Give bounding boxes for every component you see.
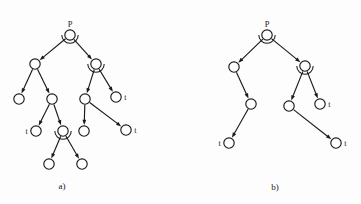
node-b-n3[interactable] (246, 99, 256, 109)
node-a-n7[interactable] (31, 126, 41, 136)
arrowhead-b-n3-to-b-n6 (232, 132, 236, 137)
edge-a-n5-to-a-n9 (84, 105, 85, 122)
node-a-n9[interactable] (79, 126, 89, 136)
caption-b: b) (271, 182, 279, 192)
node-a-n10[interactable] (121, 125, 131, 135)
arrowhead-a-n5-to-a-n9 (82, 120, 86, 125)
arrowhead-a-n4-to-a-n7 (39, 120, 43, 126)
node-a-n6[interactable] (111, 92, 121, 102)
arrowhead-b-n2-to-b-n4 (291, 95, 295, 101)
graph-diagram-a: Pttt (14, 19, 137, 170)
node-a-n12[interactable] (77, 159, 87, 169)
edge-a-root-to-a-n2 (74, 39, 90, 57)
node-label-b-n5: t (328, 100, 331, 109)
arrowhead-a-n4-to-a-n8 (58, 120, 62, 126)
edge-b-n2-to-b-n5 (307, 71, 317, 95)
node-b-n7[interactable] (331, 138, 341, 148)
node-b-n5[interactable] (315, 99, 325, 109)
arrowhead-a-n2-to-a-n6 (109, 86, 113, 91)
figure-container: PtttPttta)b) (0, 0, 361, 204)
node-b-root[interactable] (262, 30, 272, 40)
node-label-b-n6: t (219, 139, 222, 148)
edge-a-n4-to-a-n7 (40, 104, 49, 123)
graph-diagram-b: Pttt (219, 19, 348, 149)
edge-b-n1-to-b-n3 (236, 72, 247, 96)
node-a-root[interactable] (65, 30, 75, 40)
node-a-n1[interactable] (30, 59, 40, 69)
node-label-b-n7: t (344, 139, 347, 148)
node-a-n11[interactable] (44, 159, 54, 169)
arrowhead-a-n8-to-a-n11 (51, 153, 55, 159)
node-a-n4[interactable] (47, 94, 57, 104)
arrowhead-a-n2-to-a-n5 (87, 88, 91, 94)
edge-a-n1-to-a-n3 (23, 69, 33, 91)
caption-a: a) (59, 181, 66, 191)
edge-b-n3-to-b-n6 (233, 109, 248, 135)
edge-a-n5-to-a-n10 (90, 103, 119, 125)
edge-a-root-to-a-n1 (42, 39, 66, 59)
edge-a-n4-to-a-n8 (54, 104, 60, 122)
edge-a-n2-to-a-n5 (88, 70, 95, 91)
node-a-n5[interactable] (80, 94, 90, 104)
arrowhead-a-n1-to-a-n3 (21, 88, 25, 94)
edge-a-n8-to-a-n12 (66, 136, 78, 156)
arrowhead-a-n1-to-a-n4 (45, 88, 49, 94)
arrowhead-a-n8-to-a-n12 (75, 153, 79, 158)
edge-b-n4-to-b-n7 (294, 110, 329, 138)
arrowhead-b-n2-to-b-n5 (314, 93, 318, 99)
node-b-n4[interactable] (284, 101, 294, 111)
edge-a-n2-to-a-n6 (99, 69, 111, 89)
node-label-a-n7: t (26, 127, 29, 136)
node-b-n6[interactable] (224, 138, 234, 148)
edge-a-n8-to-a-n11 (52, 136, 60, 156)
edge-a-n1-to-a-n4 (38, 69, 49, 91)
arrowhead-b-n1-to-b-n3 (245, 93, 249, 99)
node-label-b-root: P (265, 19, 270, 29)
node-label-a-n10: t (134, 126, 137, 135)
and-or-graph-figure: PtttPttta)b) (0, 0, 361, 204)
node-b-n1[interactable] (229, 62, 239, 72)
node-b-n2[interactable] (300, 61, 310, 71)
node-label-a-root: P (68, 19, 73, 29)
edge-b-n2-to-b-n4 (292, 71, 303, 97)
node-a-n2[interactable] (91, 59, 101, 69)
node-a-n8[interactable] (58, 126, 68, 136)
node-a-n3[interactable] (14, 94, 24, 104)
edge-b-root-to-b-n2 (271, 39, 298, 61)
node-label-a-n6: t (124, 93, 127, 102)
edge-b-root-to-b-n1 (240, 39, 262, 61)
